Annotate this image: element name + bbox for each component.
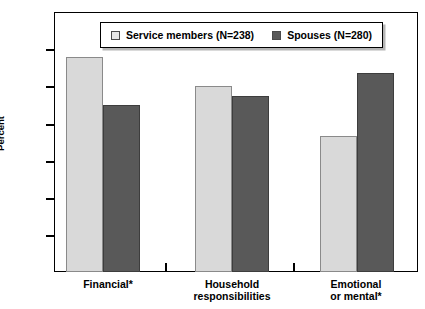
legend-item-spouses: Spouses (N=280) — [272, 29, 372, 41]
tick-mark — [46, 235, 54, 237]
x-tick-mark-1 — [165, 263, 167, 272]
x-label-line: or mental* — [296, 290, 416, 302]
y-axis-title: Percent — [0, 116, 6, 151]
legend-label: Service members (N=238) — [126, 29, 254, 41]
tick-mark — [46, 86, 54, 88]
bar-service-members-household — [195, 86, 232, 272]
x-label-household: Household responsibilities — [168, 278, 296, 302]
tick-mark — [46, 124, 54, 126]
bar-chart: Percent 0 10 20 30 40 50 60 70 Financ — [0, 0, 425, 309]
x-label-line: Emotional — [296, 278, 416, 290]
x-label-emotional: Emotional or mental* — [296, 278, 416, 302]
x-tick-mark-2 — [293, 263, 295, 272]
bar-service-members-emotional — [320, 136, 357, 272]
legend-swatch-icon — [272, 31, 281, 40]
tick-mark — [46, 161, 54, 163]
bar-spouses-household — [232, 96, 269, 272]
x-label-line: Household responsibilities — [168, 278, 296, 302]
x-label-financial: Financial* — [44, 278, 172, 290]
legend-item-service-members: Service members (N=238) — [111, 29, 254, 41]
bar-spouses-financial — [103, 105, 140, 272]
tick-mark — [46, 49, 54, 51]
legend-label: Spouses (N=280) — [287, 29, 372, 41]
bar-service-members-financial — [66, 57, 103, 272]
chart-legend: Service members (N=238) Spouses (N=280) — [100, 22, 383, 48]
legend-swatch-icon — [111, 31, 120, 40]
bar-spouses-emotional — [357, 73, 394, 272]
tick-mark — [46, 198, 54, 200]
x-label-line: Financial* — [44, 278, 172, 290]
